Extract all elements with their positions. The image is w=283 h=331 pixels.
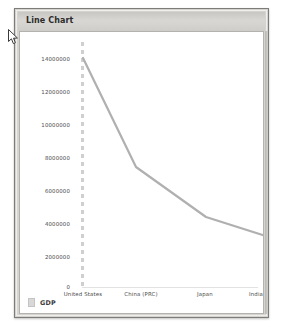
screenshot-root: Line Chart 14000000 12000000 10000000 80… [0,0,283,331]
line-chart-window: Line Chart 14000000 12000000 10000000 80… [14,8,269,318]
x-axis-tick-label: China (PRC) [124,291,157,297]
legend-item-label: GDP [40,299,56,307]
window-title: Line Chart [26,16,73,25]
x-axis-tick-label: United States [64,291,102,297]
panel-right-edge [265,31,268,314]
x-axis-tick-label: Japan [197,291,213,297]
window-titlebar[interactable]: Line Chart [18,12,265,31]
plot-area: 14000000 12000000 10000000 8000000 60000… [20,32,263,313]
chart-panel[interactable]: 14000000 12000000 10000000 8000000 60000… [19,31,264,314]
chart-legend: GDP [28,298,56,307]
legend-swatch-icon [28,298,35,307]
x-axis-tick-label: India [249,291,263,297]
series-gdp-line [20,32,263,313]
